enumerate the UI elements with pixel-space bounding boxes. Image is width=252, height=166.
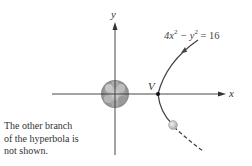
eq-term-b: − y bbox=[177, 30, 194, 41]
vertex-label: V bbox=[148, 81, 155, 92]
hyperbola-lower bbox=[158, 94, 172, 124]
hyperbola-dashed-path bbox=[174, 127, 203, 151]
note-line: not shown. bbox=[4, 145, 104, 158]
y-axis-label: y bbox=[111, 9, 116, 20]
y-axis-arrow-icon bbox=[113, 22, 118, 30]
note-line: of the hyperbola is bbox=[4, 133, 104, 146]
vertex-point bbox=[156, 92, 160, 96]
note-line: The other branch bbox=[4, 120, 104, 133]
comet-icon bbox=[169, 121, 178, 130]
eq-term-a: 4x bbox=[164, 30, 174, 41]
x-axis-arrow-icon bbox=[218, 92, 226, 97]
x-axis-label: x bbox=[229, 88, 234, 99]
hyperbola-upper bbox=[158, 40, 198, 94]
equation-label: 4x2 − y2 = 16 bbox=[164, 29, 220, 41]
eq-rhs: = 16 bbox=[198, 30, 220, 41]
direction-arrow-icon bbox=[181, 47, 187, 53]
note-text: The other branch of the hyperbola is not… bbox=[4, 120, 104, 158]
